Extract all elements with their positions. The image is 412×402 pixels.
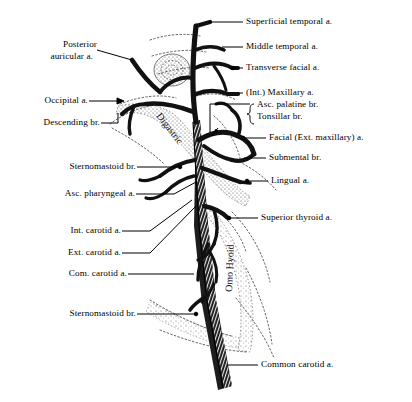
muscle-label-omohyoid: Omo Hyoid xyxy=(223,244,236,292)
label-occipital-a: Occipital a. xyxy=(0,95,88,106)
label-ext-carotid-a: Ext. carotid a. xyxy=(0,247,121,258)
label-lingual-a: Lingual a. xyxy=(271,175,309,186)
label-asc-pharyngeal-a: Asc. pharyngeal a. xyxy=(0,188,135,199)
label-middle-temporal-a: Middle temporal a. xyxy=(246,41,318,52)
omo-hyoid-text: Omo Hyoid xyxy=(223,244,236,292)
label-transverse-facial-a: Transverse facial a. xyxy=(246,62,319,73)
label-sternomastoid-br-upper: Sternomastoid br. xyxy=(0,161,136,172)
label-int-carotid-a: Int. carotid a. xyxy=(0,225,121,236)
label-posterior-auricular-a-line2: auricular a. xyxy=(0,51,93,62)
label-descending-br: Descending br. xyxy=(0,117,100,128)
anatomical-figure: Digastric Omo Hyoid xyxy=(0,0,412,402)
muscle-bands xyxy=(116,104,253,352)
label-asc-palatine-br: Asc. palatine br. xyxy=(257,99,318,110)
label-sternomastoid-br-lower: Sternomastoid br. xyxy=(0,308,136,319)
label-common-carotid-a: Common carotid a. xyxy=(261,359,333,370)
label-posterior-auricular-a-line1: Posterior xyxy=(0,39,97,50)
label-tonsillar-br: Tonsillar br. xyxy=(257,111,303,122)
label-superficial-temporal-a: Superficial temporal a. xyxy=(246,16,332,27)
label-superior-thyroid-a: Superior thyroid a. xyxy=(261,212,332,223)
label-com-carotid-a: Com. carotid a. xyxy=(0,268,127,279)
brace-palatine-tonsillar xyxy=(247,104,254,124)
label-int-maxillary-a: (Int.) Maxillary a. xyxy=(246,87,314,98)
label-submental-br: Submental br. xyxy=(269,152,321,163)
label-facial-ext-maxillary-a: Facial (Ext. maxillary) a. xyxy=(269,132,364,143)
